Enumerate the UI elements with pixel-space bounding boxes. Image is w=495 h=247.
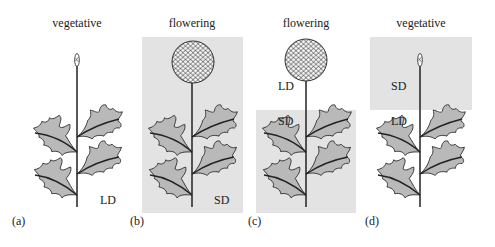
- panel-d-letter: (d): [365, 214, 379, 228]
- sd-shade-d: [370, 37, 472, 110]
- panel-c-title: flowering: [283, 16, 330, 30]
- photoperiod-diagram: vegetative LD (a) flowering SD (b) flowe…: [0, 0, 495, 247]
- bud-icon: [75, 54, 80, 67]
- panel-a: vegetative LD (a): [12, 16, 124, 228]
- flower-head-icon: [285, 39, 327, 81]
- bud-icon: [418, 54, 423, 67]
- panel-b-title: flowering: [169, 16, 216, 30]
- panel-d-title: vegetative: [396, 16, 445, 30]
- photoperiod-label-sd: SD: [391, 79, 407, 93]
- photoperiod-label-sd: SD: [278, 114, 294, 128]
- photoperiod-label-ld: LD: [391, 114, 407, 128]
- panel-c-letter: (c): [248, 214, 261, 228]
- photoperiod-label-ld: LD: [278, 79, 294, 93]
- photoperiod-label: SD: [214, 193, 230, 207]
- photoperiod-label: LD: [100, 193, 116, 207]
- panel-a-title: vegetative: [52, 16, 101, 30]
- flower-head-icon: [172, 41, 214, 83]
- panel-b-letter: (b): [130, 214, 144, 228]
- panel-a-letter: (a): [12, 214, 25, 228]
